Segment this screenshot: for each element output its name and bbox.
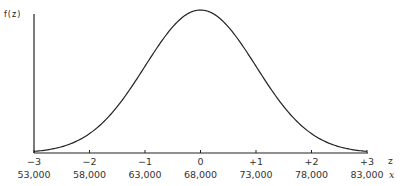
z-tick-label: 0: [197, 156, 203, 167]
z-tick-label: +1: [249, 156, 263, 167]
x-tick-label: 58,000: [73, 169, 106, 180]
x-tick-label: 83,000: [350, 169, 383, 180]
z-tick-label: +2: [304, 156, 318, 167]
x-tick-label: 73,000: [239, 169, 272, 180]
x-tick-label: 68,000: [184, 169, 217, 180]
x-axis-label: x: [389, 169, 394, 180]
z-tick-label: +3: [360, 156, 374, 167]
z-tick-label: −3: [27, 156, 41, 167]
z-tick-label: −2: [82, 156, 96, 167]
x-tick-label: 78,000: [295, 169, 328, 180]
x-tick-label: 63,000: [128, 169, 161, 180]
z-tick-label: −1: [138, 156, 152, 167]
normal-curve: [34, 10, 367, 151]
x-tick-label: 53,000: [17, 169, 50, 180]
z-axis-label: z: [388, 156, 393, 166]
y-axis-label: f(z): [4, 10, 21, 19]
